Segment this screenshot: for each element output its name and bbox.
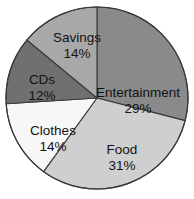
slice-value-text: 14% (63, 46, 90, 61)
slice-value-text: 12% (28, 88, 55, 103)
pie-chart-svg: Entertainment29%Food31%Clothes14%CDs12%S… (0, 0, 194, 199)
pie-slice-label-cds: CDs12% (28, 72, 55, 103)
slice-value-text: 31% (108, 158, 135, 173)
slice-value-text: 14% (39, 139, 66, 154)
slice-name-text: Entertainment (96, 85, 180, 100)
slice-name-text: CDs (29, 72, 55, 87)
pie-chart-figure: Entertainment29%Food31%Clothes14%CDs12%S… (0, 0, 194, 199)
slice-name-text: Clothes (30, 123, 76, 138)
slice-name-text: Food (107, 142, 138, 157)
slice-name-text: Savings (53, 30, 101, 45)
pie-slice-label-food: Food31% (107, 142, 138, 173)
slice-value-text: 29% (124, 101, 151, 116)
